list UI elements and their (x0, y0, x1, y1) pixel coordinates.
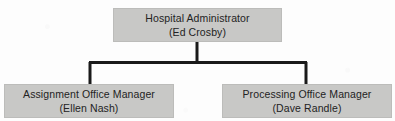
org-chart: Hospital Administrator (Ed Crosby) Assig… (0, 0, 395, 121)
node-title: Assignment Office Manager (23, 88, 155, 100)
node-assignment-office-manager[interactable]: Assignment Office Manager (Ellen Nash) (4, 84, 174, 118)
node-title: Hospital Administrator (145, 12, 249, 24)
node-title: Processing Office Manager (243, 88, 372, 100)
node-person: (Ellen Nash) (60, 102, 119, 114)
node-processing-office-manager[interactable]: Processing Office Manager (Dave Randle) (222, 84, 392, 118)
node-person: (Dave Randle) (273, 102, 342, 114)
node-person: (Ed Crosby) (169, 26, 226, 38)
node-hospital-administrator[interactable]: Hospital Administrator (Ed Crosby) (113, 8, 282, 42)
